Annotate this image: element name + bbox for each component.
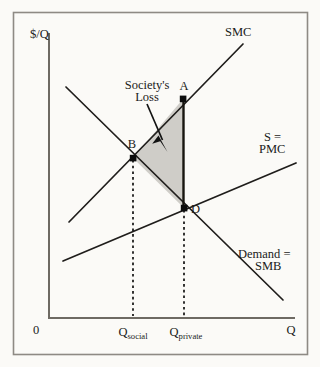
point-label-d: D (191, 202, 200, 216)
societys-loss-label-line2: Loss (135, 90, 159, 104)
smc-curve (69, 44, 243, 222)
xtick-qsocial: Qsocial (118, 325, 148, 341)
point-marker-d (181, 205, 188, 212)
xtick-qprivate: Qprivate (170, 325, 203, 341)
externality-diagram: $/Q 0 Q SMC S = PMC Demand = SMB Society… (0, 0, 320, 367)
figure-container: $/Q 0 Q SMC S = PMC Demand = SMB Society… (0, 0, 320, 367)
xtick-qsocial-base: Q (118, 325, 127, 339)
y-axis-label: $/Q (30, 27, 49, 41)
point-label-a: A (179, 79, 188, 93)
point-marker-a (180, 96, 187, 103)
origin-label: 0 (33, 323, 39, 337)
xtick-qsocial-sub: social (127, 331, 148, 341)
point-label-b: B (128, 137, 136, 151)
smc-curve-label: SMC (225, 25, 251, 39)
x-axis-label: Q (286, 323, 295, 337)
xtick-qprivate-sub: private (179, 331, 203, 341)
point-marker-b (130, 155, 137, 162)
pmc-curve-label-line2: PMC (259, 142, 285, 156)
xtick-qprivate-base: Q (170, 325, 179, 339)
demand-curve-label-line2: SMB (255, 259, 281, 273)
societys-loss-region (133, 99, 184, 208)
